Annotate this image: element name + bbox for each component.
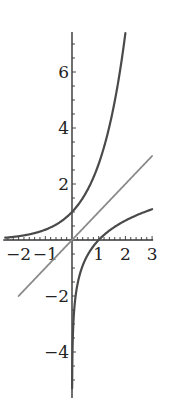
x-tick-label: 2 xyxy=(120,244,131,264)
y-tick-label: 2 xyxy=(58,174,69,194)
x-tick-label: −2 xyxy=(6,244,31,264)
curve-lnx xyxy=(72,209,152,388)
curves xyxy=(5,33,152,388)
axes xyxy=(3,32,153,398)
y-tick-label: 6 xyxy=(58,62,69,82)
tick-labels: −2−1123−4−2246 xyxy=(6,62,157,362)
y-tick-label: −4 xyxy=(44,342,69,362)
y-tick-label: 4 xyxy=(58,118,69,138)
function-plot: −2−1123−4−2246 xyxy=(0,0,172,411)
x-tick-label: 3 xyxy=(147,244,158,264)
y-tick-label: −2 xyxy=(44,286,69,306)
ticks xyxy=(8,44,152,380)
curve-x xyxy=(19,156,153,296)
x-tick-label: −1 xyxy=(33,244,58,264)
x-tick-label: 1 xyxy=(93,244,104,264)
